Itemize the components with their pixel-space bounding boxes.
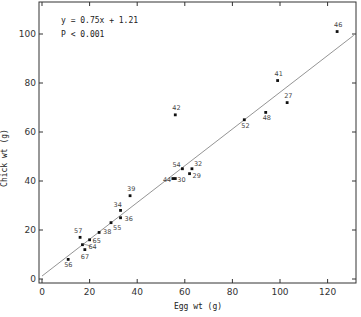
point-label: 48 [263,114,271,122]
point-label: 57 [74,227,82,235]
data-point [88,238,91,241]
data-point [264,111,267,114]
data-point [286,101,289,104]
x-tick-label: 20 [84,287,96,297]
y-tick-label: 40 [25,176,37,186]
data-point [174,177,177,180]
data-point [81,243,84,246]
y-tick-label: 0 [30,274,36,284]
data-point [110,221,113,224]
data-point [276,79,279,82]
data-point [129,194,132,197]
data-point [119,209,122,212]
y-axis-ticks: 020406080100 [19,29,356,284]
x-tick-label: 60 [179,287,191,297]
point-label: 65 [93,237,101,245]
point-label: 67 [81,253,89,261]
point-label: 27 [284,92,292,100]
regression-annotation: y = 0.75x + 1.21 P < 0.001 [61,16,138,39]
data-point [67,258,70,261]
x-tick-label: 40 [131,287,143,297]
data-point [336,30,339,33]
scatter-chart: 020406080100120 020406080100 56676457653… [0,0,361,317]
x-tick-label: 0 [39,287,45,297]
x-tick-label: 100 [271,287,288,297]
point-label: 36 [125,215,133,223]
x-tick-label: 80 [227,287,239,297]
data-point [243,118,246,121]
x-axis-title: Egg wt (g) [174,302,222,311]
point-label: 56 [64,261,72,269]
y-tick-label: 100 [19,29,36,39]
data-points: 5667645765385536343944305432294252484127… [64,21,342,270]
data-point [119,216,122,219]
point-label: 44 [163,176,171,184]
data-point [174,113,177,116]
point-label: 46 [334,21,342,29]
data-point [181,167,184,170]
regression-equation: y = 0.75x + 1.21 [61,16,138,25]
point-label: 55 [113,224,121,232]
data-point [83,248,86,251]
point-label: 30 [177,176,185,184]
point-label: 29 [193,172,201,180]
point-label: 52 [241,122,249,130]
y-tick-label: 60 [25,127,37,137]
point-label: 34 [114,201,122,209]
y-axis-title: Chick wt (g) [0,129,9,187]
point-label: 41 [275,70,283,78]
data-point [191,167,194,170]
x-tick-label: 120 [319,287,336,297]
point-label: 54 [172,161,180,169]
point-label: 32 [194,160,202,168]
y-tick-label: 20 [25,225,37,235]
data-point [79,236,82,239]
plot-border [39,2,356,283]
data-point [188,172,191,175]
point-label: 38 [103,228,111,236]
point-label: 42 [172,104,180,112]
data-point [98,231,101,234]
p-value: P < 0.001 [61,30,105,39]
y-tick-label: 80 [25,78,37,88]
point-label: 39 [127,185,135,193]
plot-frame [39,2,356,283]
